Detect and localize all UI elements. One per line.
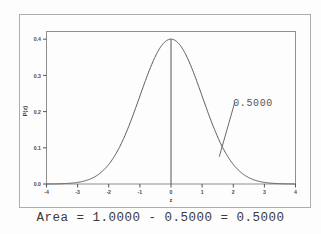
xtick-label-5: 1	[201, 189, 204, 195]
annotation-leader-line	[219, 102, 235, 156]
caption-text: Area = 1.0000 - 0.5000 = 0.5000	[0, 211, 321, 225]
ytick-label-0: 0.4	[34, 36, 41, 42]
x-axis-title: z	[170, 197, 173, 203]
ytick-label-4: 0.0	[34, 181, 41, 187]
xtick-label-0: -4	[44, 189, 49, 195]
ytick-label-2: 0.2	[34, 109, 41, 115]
area-annotation-label: 0.5000	[233, 98, 273, 109]
xtick-label-3: -1	[138, 189, 143, 195]
xtick-label-8: 4	[294, 189, 297, 195]
x-axis: -4 -3 -2 -1 0 1 2 3 4	[44, 184, 297, 195]
xtick-label-6: 2	[232, 189, 235, 195]
xtick-label-1: -3	[75, 189, 80, 195]
xtick-label-7: 3	[263, 189, 266, 195]
xtick-label-2: -2	[106, 189, 111, 195]
ytick-label-3: 0.1	[34, 145, 41, 151]
y-axis-title: P(z)	[22, 106, 28, 116]
xtick-label-4: 0	[170, 189, 173, 195]
ytick-label-1: 0.3	[34, 73, 41, 79]
y-axis: 0.4 0.3 0.2 0.1 0.0	[34, 36, 47, 187]
normal-distribution-chart: 0.4 0.3 0.2 0.1 0.0 P(z) -4 -3 -2 -1 0 1…	[0, 0, 321, 234]
chart-root: 0.4 0.3 0.2 0.1 0.0 P(z) -4 -3 -2 -1 0 1…	[0, 0, 321, 234]
